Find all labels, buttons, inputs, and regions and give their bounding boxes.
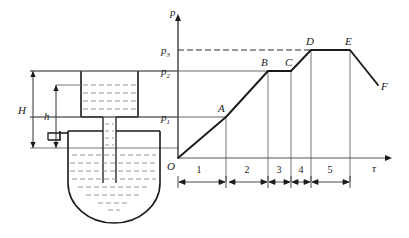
dimension-h: h	[44, 85, 81, 148]
vessel-assembly: H h	[17, 71, 178, 223]
segment-label-4: 4	[299, 164, 304, 175]
liquid-upper	[83, 85, 136, 109]
point-label-A: A	[217, 102, 225, 114]
x-axis-arrow	[385, 155, 392, 161]
upper-tank-walls	[81, 71, 138, 117]
origin-label: O	[167, 160, 175, 172]
graph-area: p τ O p3 p2 p1	[30, 6, 392, 188]
segment-label-5: 5	[328, 164, 333, 175]
figure-root: H h p τ O p	[0, 0, 409, 238]
dimension-label-h: h	[44, 110, 50, 122]
x-axis-label: τ	[372, 162, 377, 174]
segment-label-1: 1	[197, 164, 202, 175]
y-axis-label: p	[169, 6, 176, 18]
level-label-p2: p2	[160, 65, 171, 80]
point-label-E: E	[344, 35, 352, 47]
y-axis-arrow	[175, 14, 181, 21]
liquid-lower	[70, 155, 158, 210]
point-label-B: B	[261, 56, 268, 68]
point-label-D: D	[305, 35, 314, 47]
liquid-neck	[105, 124, 114, 145]
level-label-p3: p3	[160, 44, 171, 59]
segment-label-3: 3	[277, 164, 282, 175]
level-label-p1: p1	[160, 111, 170, 126]
point-label-F: F	[380, 80, 388, 92]
segment-dimensions: 1 2 3 4 5	[178, 164, 350, 188]
pressure-curve	[178, 50, 378, 158]
point-label-C: C	[285, 56, 293, 68]
drop-lines	[226, 50, 350, 182]
pressure-time-diagram: H h p τ O p	[0, 0, 409, 238]
neck-tube	[103, 117, 116, 183]
dimension-label-H: H	[17, 104, 27, 116]
segment-label-2: 2	[245, 164, 250, 175]
side-pipe-flange	[48, 133, 68, 140]
dimension-H: H	[17, 71, 36, 148]
